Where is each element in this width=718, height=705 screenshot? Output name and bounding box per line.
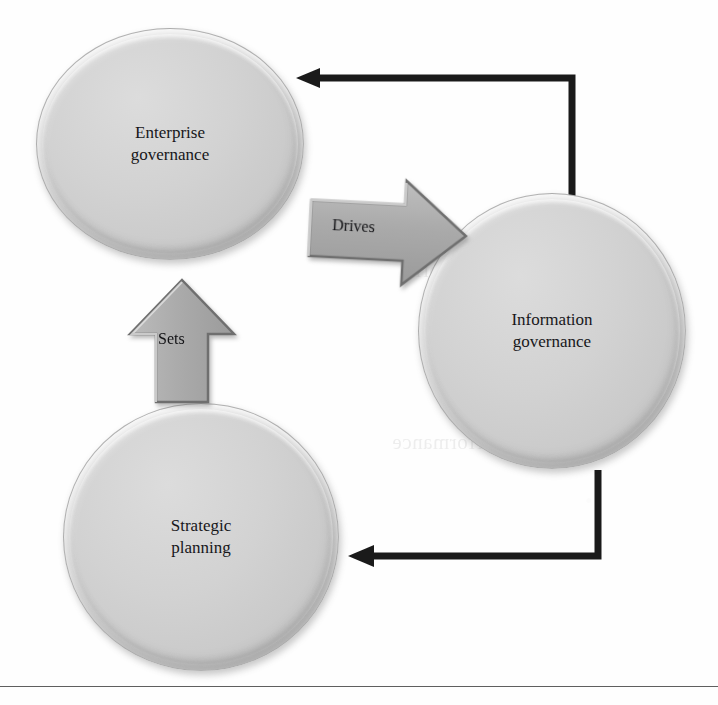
block-arrow-sets[interactable]: Sets <box>126 276 238 406</box>
block-arrow-sets-label: Sets <box>158 330 185 348</box>
block-arrow-drives[interactable]: Drives <box>303 172 473 292</box>
node-enterprise-governance[interactable]: Enterprise governance <box>36 28 304 260</box>
block-arrow-drives-label: Drives <box>332 216 376 236</box>
drives-arrow-icon <box>303 172 473 292</box>
figure-canvas: and governance mandated set of prin ples… <box>0 0 718 705</box>
footer-divider <box>0 686 718 687</box>
node-strategic-planning[interactable]: Strategic planning <box>63 403 339 671</box>
node-enterprise-governance-label: Enterprise governance <box>131 122 209 166</box>
node-information-governance-label: Information governance <box>511 309 592 353</box>
node-strategic-planning-label: Strategic planning <box>171 515 231 559</box>
